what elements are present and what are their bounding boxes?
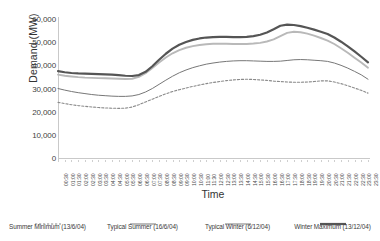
- x-tick-mark: [71, 160, 72, 162]
- x-tick-label: 04:30: [117, 174, 123, 186]
- x-tick-label: 18:30: [306, 174, 312, 186]
- y-tick-label: 50,000: [32, 38, 56, 47]
- x-tick-mark: [200, 160, 201, 162]
- x-tick-mark: [287, 160, 288, 162]
- x-tick-mark: [105, 160, 106, 162]
- y-axis-tick-labels: 60,00050,00040,00030,00020,00010,0000: [8, 0, 56, 170]
- x-tick-label: 16:00: [272, 174, 278, 186]
- plot-area: [58, 19, 368, 158]
- y-tick-label: 30,000: [32, 84, 56, 93]
- legend-swatch-icon: [320, 213, 346, 219]
- x-tick-mark: [280, 160, 281, 162]
- x-tick-mark: [226, 160, 227, 162]
- x-tick-label: 10:30: [198, 174, 204, 186]
- x-tick-mark: [307, 160, 308, 162]
- y-tick-label: 10,000: [32, 130, 56, 139]
- series-group: [58, 19, 368, 158]
- x-tick-mark: [119, 160, 120, 162]
- legend-item[interactable]: Summer Minimum (13/6/04): [0, 213, 95, 241]
- x-tick-mark: [233, 160, 234, 162]
- x-tick-mark: [361, 160, 362, 162]
- x-tick-label: 15:30: [265, 174, 271, 186]
- x-tick-mark: [193, 160, 194, 162]
- x-tick-mark: [368, 160, 369, 162]
- x-tick-label: 11:00: [205, 174, 211, 186]
- x-tick-label: 03:30: [103, 174, 109, 186]
- x-tick-label: 15:00: [258, 174, 264, 186]
- demand-profile-chart: Demand (MW) 60,00050,00040,00030,00020,0…: [0, 0, 380, 241]
- x-tick-mark: [274, 160, 275, 162]
- x-tick-label: 21:30: [346, 174, 352, 186]
- legend-swatch-icon: [35, 213, 61, 219]
- x-tick-mark: [132, 160, 133, 162]
- chart-legend: Summer Minimum (13/6/04)Typical Summer (…: [0, 213, 380, 241]
- y-tick-label: 40,000: [32, 61, 56, 70]
- x-tick-label: 01:30: [76, 174, 82, 186]
- x-tick-mark: [267, 160, 268, 162]
- x-tick-label: 18:00: [299, 174, 305, 186]
- legend-item[interactable]: Winter Maximum (13/12/04): [285, 213, 380, 241]
- x-tick-mark: [314, 160, 315, 162]
- x-tick-mark: [334, 160, 335, 162]
- x-tick-mark: [58, 160, 59, 162]
- x-tick-mark: [85, 160, 86, 162]
- x-tick-label: 23:30: [373, 174, 379, 186]
- x-tick-mark: [260, 160, 261, 162]
- x-tick-label: 12:30: [225, 174, 231, 186]
- x-tick-label: 19:00: [312, 174, 318, 186]
- y-tick-label: 0: [52, 154, 56, 163]
- x-tick-label: 02:00: [83, 174, 89, 186]
- legend-label: Summer Minimum (13/6/04): [9, 223, 86, 230]
- x-axis-tick-labels: 00:3001:0001:3002:0002:3003:0003:3004:00…: [58, 160, 368, 188]
- x-tick-mark: [146, 160, 147, 162]
- x-tick-label: 07:00: [151, 174, 157, 186]
- x-tick-mark: [321, 160, 322, 162]
- x-tick-label: 03:00: [97, 174, 103, 186]
- x-tick-mark: [186, 160, 187, 162]
- legend-label: Winter Maximum (13/12/04): [294, 223, 370, 230]
- y-tick-label: 20,000: [32, 107, 56, 116]
- x-tick-label: 20:00: [326, 174, 332, 186]
- x-axis-line: [58, 158, 370, 159]
- x-tick-label: 22:30: [360, 174, 366, 186]
- x-tick-label: 19:30: [319, 174, 325, 186]
- x-tick-mark: [92, 160, 93, 162]
- x-tick-label: 06:30: [144, 174, 150, 186]
- x-tick-label: 11:30: [211, 174, 217, 186]
- series-line: [58, 25, 368, 76]
- x-axis-title: Time: [58, 188, 368, 200]
- x-tick-mark: [355, 160, 356, 162]
- legend-swatch-icon: [225, 213, 251, 219]
- x-tick-label: 22:00: [353, 174, 359, 186]
- x-tick-mark: [78, 160, 79, 162]
- x-tick-label: 16:30: [279, 174, 285, 186]
- x-tick-label: 14:00: [245, 174, 251, 186]
- series-line: [58, 32, 368, 79]
- x-tick-mark: [253, 160, 254, 162]
- x-tick-mark: [341, 160, 342, 162]
- x-tick-label: 13:30: [238, 174, 244, 186]
- x-tick-label: 20:30: [333, 174, 339, 186]
- legend-swatch-icon: [130, 213, 156, 219]
- x-tick-label: 05:00: [124, 174, 130, 186]
- x-tick-mark: [173, 160, 174, 162]
- x-tick-label: 00:30: [63, 174, 69, 186]
- x-tick-mark: [206, 160, 207, 162]
- legend-label: Typical Summer (16/6/04): [107, 223, 178, 230]
- x-tick-mark: [112, 160, 113, 162]
- x-tick-label: 17:30: [292, 174, 298, 186]
- legend-item[interactable]: Typical Summer (16/6/04): [95, 213, 190, 241]
- x-tick-label: 14:30: [252, 174, 258, 186]
- x-tick-mark: [179, 160, 180, 162]
- x-tick-mark: [301, 160, 302, 162]
- x-tick-mark: [348, 160, 349, 162]
- legend-item[interactable]: Typical Winter (6/12/04): [190, 213, 285, 241]
- legend-label: Typical Winter (6/12/04): [205, 223, 270, 230]
- x-tick-mark: [220, 160, 221, 162]
- x-tick-label: 09:30: [184, 174, 190, 186]
- x-tick-mark: [166, 160, 167, 162]
- x-tick-mark: [240, 160, 241, 162]
- x-tick-mark: [152, 160, 153, 162]
- x-tick-label: 10:00: [191, 174, 197, 186]
- x-tick-label: 06:00: [137, 174, 143, 186]
